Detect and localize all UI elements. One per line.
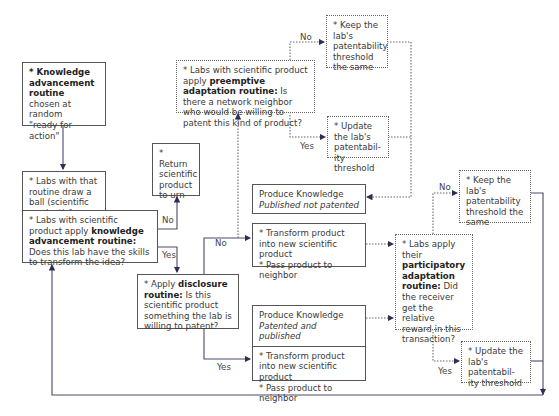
participatory-text-pre: * Labs apply their: [402, 239, 455, 260]
edge-label-disclosure-no: No: [215, 238, 227, 248]
pp-divider: [253, 346, 365, 347]
pp-line2: * Pass product to neighbor: [259, 383, 332, 404]
pp-line1: * Transform product into new scientific …: [259, 351, 345, 382]
edge-label-knowledge-yes: Yes: [162, 250, 176, 260]
edge-label-disclosure-yes: Yes: [217, 362, 231, 372]
node-preemptive-adaptation: * Labs with scientific product apply pre…: [176, 60, 315, 113]
node-return-to-urn: * Return scientific product to urn: [152, 143, 200, 196]
node-knowledge-advancement-question: * Labs with scientific product apply kno…: [22, 210, 158, 263]
keep-top-text: * Keep the lab's patentability threshold…: [333, 20, 388, 72]
node-keep-threshold-right: * Keep the lab's patentability threshold…: [459, 170, 531, 223]
edge-label-knowledge-no: No: [162, 215, 174, 225]
return-urn-text: * Return scientific product to urn: [159, 148, 197, 200]
edge-label-participatory-no: No: [439, 182, 451, 192]
node-update-threshold-right: * Update the lab's patentabil-ity thresh…: [461, 341, 531, 383]
node-keep-threshold-top: * Keep the lab's patentability threshold…: [326, 15, 388, 68]
node-update-threshold-top: * Update the lab's patentabil-ity thresh…: [327, 116, 389, 158]
edge-label-preemptive-yes: Yes: [300, 141, 314, 151]
node-participatory-adaptation: * Labs apply their participatory adaptat…: [395, 234, 473, 330]
edge-label-participatory-yes: Yes: [438, 366, 452, 376]
node-knowledge-advancement-start: * Knowledge advancement routine chosen a…: [22, 62, 106, 126]
update-top-text: * Update the lab's patentabil-ity thresh…: [334, 121, 381, 173]
flowchart-canvas: * Knowledge advancement routine chosen a…: [0, 0, 559, 416]
node-disclosure-routine: * Apply disclosure routine: Is this scie…: [137, 274, 239, 329]
pnp-subtitle: Published not patented: [259, 200, 359, 210]
keep-right-text: * Keep the lab's patentability threshold…: [466, 175, 523, 227]
disclosure-text-pre: * Apply: [144, 279, 178, 289]
start-bold-text: * Knowledge advancement routine: [29, 67, 94, 98]
transform-top-line1: * Transform product into new scientific …: [259, 228, 345, 259]
pnp-title: Produce Knowledge: [259, 189, 344, 199]
start-text-1: chosen at random: [29, 99, 71, 120]
node-published-not-patented: Produce Knowledge Published not patented: [252, 184, 366, 214]
node-patented-and-published: Produce Knowledge Patented and published…: [252, 305, 366, 381]
edge-label-preemptive-no: No: [300, 32, 312, 42]
update-right-text: * Update the lab's patentabil-ity thresh…: [468, 346, 523, 388]
node-transform-product-top: * Transform product into new scientific …: [252, 223, 366, 267]
pp-subtitle: Patented and published: [259, 321, 317, 342]
pp-title: Produce Knowledge: [259, 310, 344, 320]
